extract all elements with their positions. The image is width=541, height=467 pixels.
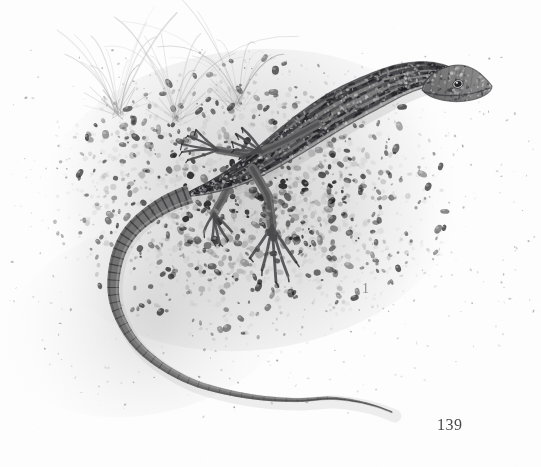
- lizard-illustration-canvas: [0, 0, 541, 467]
- page-number-label: 139: [437, 416, 463, 434]
- illustration-plate: 1 139: [0, 0, 541, 467]
- figure-number-label: 1: [362, 281, 369, 297]
